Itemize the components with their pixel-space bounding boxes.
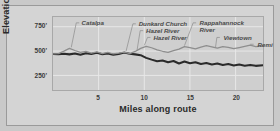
x-tick-label: 10 — [132, 94, 156, 101]
x-tick-label: 20 — [224, 94, 248, 101]
leader-line — [144, 37, 150, 45]
y-tick-label: 500' — [7, 47, 47, 54]
annotation-label: Hazel River — [153, 34, 186, 41]
leader-line — [126, 24, 136, 51]
annotation-label: Remi — [258, 41, 273, 48]
x-tick-label: 15 — [178, 94, 202, 101]
leader-line — [137, 31, 143, 51]
y-tick-label: 250' — [7, 72, 47, 79]
leader-line — [71, 23, 79, 48]
annotation-label: Rappahannock River — [199, 19, 243, 33]
leader-line — [216, 37, 220, 47]
x-axis-title: Miles along route — [52, 104, 264, 114]
x-tick-label: 5 — [86, 94, 110, 101]
annotation-label: Viewtown — [223, 34, 251, 41]
annotation-label: Catalpa — [81, 19, 103, 26]
chart-figure: Elevation 750'500'250' CatalpaDunkard Ch… — [6, 5, 274, 126]
y-tick-label: 750' — [7, 22, 47, 29]
